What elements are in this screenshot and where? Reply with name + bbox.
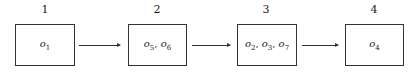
node-label: o2, o3, o7 <box>245 38 289 52</box>
step-number-3: 3 <box>256 3 276 16</box>
node-step-3: o2, o3, o7 <box>237 24 297 66</box>
node-label: o1 <box>40 38 51 52</box>
node-label: o4 <box>369 38 380 52</box>
step-number-2: 2 <box>147 3 167 16</box>
step-number-1: 1 <box>35 3 55 16</box>
node-step-2: o5, o6 <box>128 24 187 66</box>
node-step-4: o4 <box>345 24 404 66</box>
node-label: o5, o6 <box>144 38 171 52</box>
node-step-1: o1 <box>15 24 75 66</box>
arrow-2-to-3-icon <box>192 45 230 46</box>
arrow-1-to-2-icon <box>79 45 120 46</box>
arrow-3-to-4-icon <box>302 45 338 46</box>
step-number-4: 4 <box>364 3 384 16</box>
